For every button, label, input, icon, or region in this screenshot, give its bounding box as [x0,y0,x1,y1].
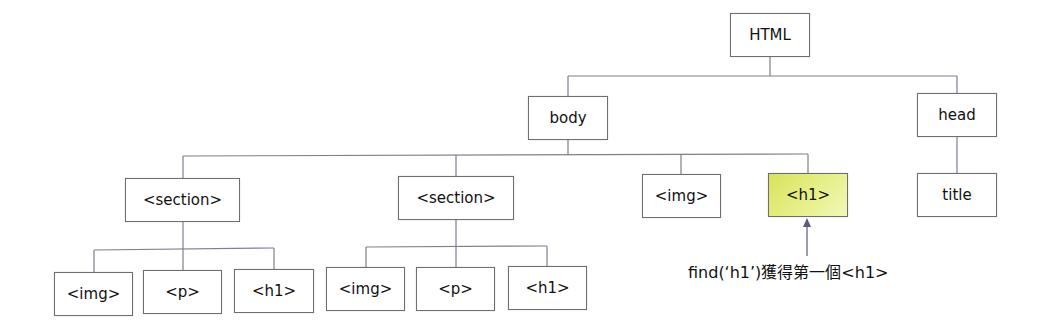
node-section-1: <section> [125,178,240,222]
node-img: <img> [642,174,721,218]
node-body: body [528,96,608,140]
node-section-1-p: <p> [143,270,222,314]
node-section-2: <section> [398,176,514,220]
node-title: title [917,173,997,217]
node-head: head [917,93,997,137]
node-section-1-h1: <h1> [234,269,314,313]
annotation-caption: find(‘h1’)獲得第一個<h1> [688,259,888,283]
node-section-1-img: <img> [54,272,133,316]
node-section-2-img: <img> [326,267,405,311]
arrow-head-icon [803,218,811,227]
node-section-2-h1: <h1> [508,266,587,310]
node-h1-highlighted: <h1> [768,173,848,217]
node-html: HTML [730,13,810,57]
node-section-2-p: <p> [416,267,495,311]
